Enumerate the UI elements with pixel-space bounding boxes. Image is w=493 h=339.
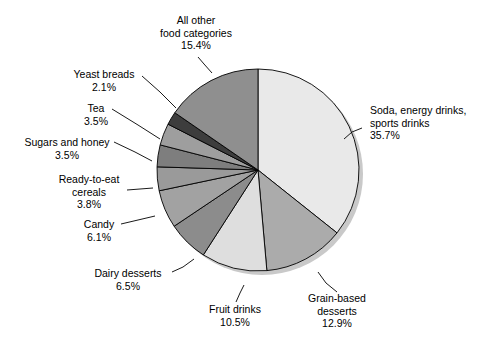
label-line: Candy bbox=[84, 218, 115, 230]
label-line: 3.5% bbox=[84, 115, 108, 127]
label-line: desserts bbox=[317, 305, 357, 317]
label-line: 6.1% bbox=[87, 231, 111, 243]
label-line: cereals bbox=[72, 186, 106, 198]
label-line: 10.5% bbox=[220, 316, 250, 328]
label-line: 2.1% bbox=[92, 81, 116, 93]
pie-chart-canvas: Soda, energy drinks,sports drinks35.7%Gr… bbox=[0, 0, 493, 339]
pie-slices-group bbox=[157, 69, 359, 271]
label-line: food categories bbox=[160, 27, 232, 39]
label-line: Soda, energy drinks, bbox=[370, 104, 466, 116]
label-line: 12.9% bbox=[322, 317, 352, 329]
slice-label-candy: Candy6.1% bbox=[84, 218, 115, 243]
label-line: Tea bbox=[88, 102, 105, 114]
label-line: 6.5% bbox=[116, 280, 140, 292]
pie-chart-figure: Soda, energy drinks,sports drinks35.7%Gr… bbox=[0, 0, 493, 339]
label-line: 3.5% bbox=[55, 149, 79, 161]
slice-label-tea: Tea3.5% bbox=[84, 102, 108, 127]
label-line: Fruit drinks bbox=[209, 303, 261, 315]
label-line: Dairy desserts bbox=[94, 267, 161, 279]
label-line: 3.8% bbox=[77, 198, 101, 210]
label-line: 35.7% bbox=[370, 129, 400, 141]
label-line: Yeast breads bbox=[74, 68, 135, 80]
label-line: 15.4% bbox=[181, 39, 211, 51]
label-line: Ready-to-eat bbox=[59, 173, 120, 185]
label-line: All other bbox=[177, 14, 216, 26]
label-line: Grain-based bbox=[308, 292, 366, 304]
label-line: Sugars and honey bbox=[24, 136, 110, 148]
label-line: sports drinks bbox=[370, 117, 430, 129]
